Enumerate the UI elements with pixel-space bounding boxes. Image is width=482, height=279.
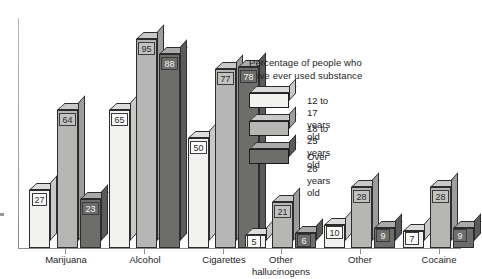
value-label-marijuana-12-17: 27: [32, 193, 47, 206]
bar-alcohol-18-25: [136, 39, 157, 248]
category-label-hallucinogens: Other hallucinogens: [245, 254, 317, 278]
bar-alcohol-26plus: [159, 54, 180, 248]
category-label-marijuana: Marijuana: [30, 254, 102, 266]
value-label-alcohol-18-25: 95: [138, 42, 155, 55]
x-axis-line: [18, 248, 461, 249]
value-label-cocaine-12-17: 7: [405, 232, 419, 245]
bar-alcohol-12-17: [109, 110, 130, 248]
value-label-other-26plus: 9: [376, 229, 390, 242]
bar-side-face: [101, 184, 108, 241]
bar-front-face: [188, 138, 209, 248]
legend-title: Percentage of people who have ever used …: [249, 56, 449, 82]
bar-cigarettes-12-17: [188, 138, 209, 248]
bar-front-face: [109, 110, 130, 248]
value-label-marijuana-26plus: 23: [82, 202, 99, 215]
bar-front-face: [215, 69, 236, 248]
bar-front-face: [57, 110, 78, 248]
value-label-hallucinogens-26plus: 6: [297, 234, 311, 247]
value-label-cigarettes-26plus: 78: [240, 70, 257, 83]
bar-side-face: [474, 213, 481, 241]
legend-swatch-front-face: [249, 93, 289, 108]
value-label-other-12-17: 10: [326, 226, 343, 239]
bar-marijuana-18-25: [57, 110, 78, 248]
category-label-other: Other: [325, 254, 395, 266]
legend-swatch-12-17: [249, 93, 289, 108]
value-label-other-18-25: 28: [353, 190, 370, 203]
bar-front-face: [136, 39, 157, 248]
category-label-cocaine: Cocaine: [404, 254, 474, 266]
category-label-alcohol: Alcohol: [110, 254, 180, 266]
value-label-alcohol-26plus: 88: [161, 57, 178, 70]
legend-swatch-18-25: [249, 121, 289, 136]
bar-cigarettes-18-25: [215, 69, 236, 248]
legend-swatch-side-face: [289, 106, 296, 129]
value-label-cigarettes-12-17: 50: [190, 141, 207, 154]
legend-swatch-26plus: [249, 149, 289, 164]
bar-side-face: [180, 39, 187, 241]
value-label-cocaine-18-25: 28: [432, 190, 449, 203]
value-label-marijuana-18-25: 64: [59, 113, 76, 126]
bar-side-face: [395, 213, 402, 241]
bar-front-face: [159, 54, 180, 248]
value-label-cigarettes-18-25: 77: [217, 72, 234, 85]
value-label-cocaine-26plus: 9: [453, 229, 467, 242]
legend-label-26plus: Over 26 years old: [307, 151, 330, 199]
legend-swatch-front-face: [249, 149, 289, 164]
axis-origin-tick: [0, 213, 4, 216]
legend: Percentage of people who have ever used …: [249, 56, 449, 82]
value-label-alcohol-12-17: 65: [111, 113, 128, 126]
legend-swatch-side-face: [289, 134, 296, 157]
value-label-hallucinogens-12-17: 5: [247, 235, 261, 248]
value-label-hallucinogens-18-25: 21: [274, 205, 291, 218]
y-axis-line: [18, 18, 19, 248]
bar-side-face: [50, 175, 57, 241]
legend-swatch-front-face: [249, 121, 289, 136]
bar-side-face: [316, 218, 323, 241]
